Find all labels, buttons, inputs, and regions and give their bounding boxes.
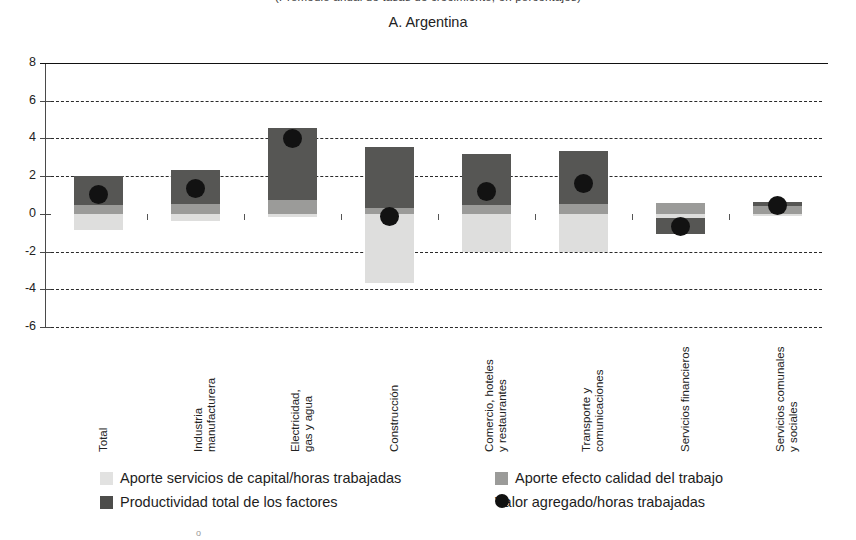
y-axis-label: 0 xyxy=(2,206,36,220)
x-axis-label: Transporte ycomunicaciones xyxy=(580,370,605,452)
x-axis-label-line: y sociales xyxy=(786,347,799,452)
bar-group[interactable] xyxy=(753,63,802,327)
bar-segment-quality xyxy=(171,204,220,213)
legend-item-value-added: Valor agregado/horas trabajadas xyxy=(495,494,705,510)
bar-group[interactable] xyxy=(559,63,608,327)
x-axis-label: Industriamanufacturera xyxy=(192,378,217,452)
x-axis-label-line: gas y agua xyxy=(301,389,314,452)
x-axis-label-line: Comercio, hoteles xyxy=(483,359,496,452)
chart-legend: Aporte servicios de capital/horas trabaj… xyxy=(0,470,856,518)
legend-item-capital: Aporte servicios de capital/horas trabaj… xyxy=(100,470,401,486)
x-axis-tick xyxy=(729,214,730,220)
legend-swatch-value-added xyxy=(495,494,509,508)
legend-label-value-added: Valor agregado/horas trabajadas xyxy=(495,494,705,510)
y-axis-label: 6 xyxy=(2,93,36,107)
chart-supertitle-clip: (Promedio anual de tasas de crecimiento,… xyxy=(0,0,856,3)
bar-segment-capital xyxy=(462,214,511,252)
value-added-marker xyxy=(477,182,496,201)
value-added-marker xyxy=(283,129,302,148)
value-added-marker xyxy=(768,196,787,215)
bar-segment-quality xyxy=(656,203,705,213)
bar-group[interactable] xyxy=(74,63,123,327)
value-added-marker xyxy=(89,185,108,204)
x-axis-tick xyxy=(147,214,148,220)
bar-segment-quality xyxy=(74,205,123,213)
x-axis-tick xyxy=(244,214,245,220)
y-axis-tick xyxy=(40,252,51,253)
x-axis-tick xyxy=(438,214,439,220)
legend-swatch-quality xyxy=(495,472,508,485)
bar-group[interactable] xyxy=(462,63,511,327)
legend-swatch-tfp xyxy=(100,496,113,509)
y-axis-line xyxy=(45,63,46,327)
x-axis-label: Servicios comunalesy sociales xyxy=(774,347,799,452)
gridline xyxy=(46,101,822,102)
bar-segment-quality xyxy=(559,204,608,213)
y-axis-label: -4 xyxy=(2,281,36,295)
bar-segment-quality xyxy=(462,205,511,213)
y-axis-tick xyxy=(40,289,51,290)
legend-item-tfp: Productividad total de los factores xyxy=(100,494,338,510)
value-added-marker xyxy=(186,179,205,198)
gridline xyxy=(46,327,822,328)
y-axis-label: -6 xyxy=(2,319,36,333)
plot-area xyxy=(46,63,822,327)
bar-segment-quality xyxy=(268,200,317,214)
x-axis-label-line: Transporte y xyxy=(580,370,593,452)
x-axis-tick xyxy=(341,214,342,220)
x-axis-tick xyxy=(535,214,536,220)
y-axis-tick xyxy=(40,138,51,139)
x-axis-label: Comercio, hotelesy restaurantes xyxy=(483,359,508,452)
x-axis-label-line: Total xyxy=(97,428,110,452)
x-axis-label: Construcción xyxy=(388,385,401,452)
bar-segment-capital xyxy=(559,214,608,252)
x-axis-label: Servicios financieros xyxy=(679,347,692,452)
bar-group[interactable] xyxy=(268,63,317,327)
x-axis-label-line: Servicios comunales xyxy=(774,347,787,452)
chart-supertitle: (Promedio anual de tasas de crecimiento,… xyxy=(0,0,856,3)
legend-label-tfp: Productividad total de los factores xyxy=(120,494,338,510)
x-axis-label-line: Servicios financieros xyxy=(679,347,692,452)
footnote-mark: o xyxy=(196,528,201,538)
y-axis-tick xyxy=(40,327,51,328)
y-axis-tick xyxy=(40,176,51,177)
bar-group[interactable] xyxy=(171,63,220,327)
zero-baseline xyxy=(40,63,828,64)
bar-segment-tfp xyxy=(365,147,414,208)
x-axis-label-line: comunicaciones xyxy=(592,370,605,452)
legend-swatch-capital xyxy=(100,472,113,485)
gridline xyxy=(46,289,822,290)
x-axis-tick xyxy=(632,214,633,220)
legend-label-capital: Aporte servicios de capital/horas trabaj… xyxy=(120,470,401,486)
page-title: A. Argentina xyxy=(0,14,856,30)
value-added-marker xyxy=(671,217,690,236)
x-axis-label-line: Electricidad, xyxy=(289,389,302,452)
y-axis-label: -2 xyxy=(2,244,36,258)
x-axis-label-line: Construcción xyxy=(388,385,401,452)
x-axis-label: Electricidad,gas y agua xyxy=(289,389,314,452)
legend-label-quality: Aporte efecto calidad del trabajo xyxy=(515,470,723,486)
y-axis-label: 8 xyxy=(2,55,36,69)
y-axis-tick xyxy=(40,214,51,215)
gridline xyxy=(46,176,822,177)
bar-group[interactable] xyxy=(365,63,414,327)
gridline xyxy=(46,252,822,253)
y-axis-label: 2 xyxy=(2,168,36,182)
bar-segment-capital xyxy=(74,214,123,230)
bar-group[interactable] xyxy=(656,63,705,327)
x-axis-label-line: manufacturera xyxy=(204,378,217,452)
bar-segment-capital xyxy=(268,214,317,217)
x-axis-label-line: y restaurantes xyxy=(495,359,508,452)
y-axis-label: 4 xyxy=(2,130,36,144)
x-axis-label: Total xyxy=(97,428,110,452)
x-axis-label-line: Industria xyxy=(192,378,205,452)
legend-item-quality: Aporte efecto calidad del trabajo xyxy=(495,470,723,486)
gridline xyxy=(46,138,822,139)
y-axis-tick xyxy=(40,101,51,102)
bar-segment-capital xyxy=(171,214,220,222)
